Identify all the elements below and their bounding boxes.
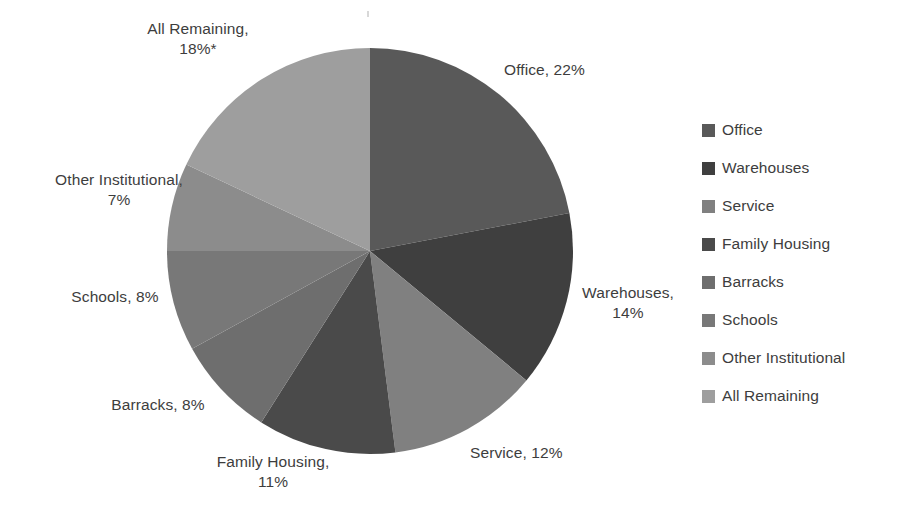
legend-item[interactable]: All Remaining [702,377,902,415]
legend-swatch-icon [702,162,715,175]
legend-item-label: Warehouses [722,159,809,177]
legend-swatch-icon [702,124,715,137]
legend-item[interactable]: Barracks [702,263,902,301]
legend-swatch-icon [702,352,715,365]
slice-label-warehouses: Warehouses, 14% [568,283,688,323]
legend-item[interactable]: Warehouses [702,149,902,187]
legend-item-label: Schools [722,311,778,329]
legend-swatch-icon [702,276,715,289]
chart-legend: OfficeWarehousesServiceFamily HousingBar… [702,111,902,415]
slice-label-schools: Schools, 8% [50,287,180,307]
legend-item[interactable]: Schools [702,301,902,339]
pie-chart-figure: Office, 22% Warehouses, 14% Service, 12%… [0,0,911,519]
slice-label-barracks: Barracks, 8% [88,395,228,415]
slice-label-other-institutional: Other Institutional, 7% [30,170,208,210]
legend-item-label: Office [722,121,763,139]
legend-swatch-icon [702,314,715,327]
legend-swatch-icon [702,238,715,251]
slice-label-service: Service, 12% [470,443,620,463]
legend-item-label: Family Housing [722,235,830,253]
legend-item-label: All Remaining [722,387,819,405]
legend-item-label: Service [722,197,774,215]
slice-label-all-remaining: All Remaining, 18%* [123,19,273,59]
legend-item[interactable]: Family Housing [702,225,902,263]
slice-label-family-housing: Family Housing, 11% [193,452,353,492]
legend-item[interactable]: Office [702,111,902,149]
pie-slice-group [167,48,573,454]
slice-label-office: Office, 22% [504,60,644,80]
legend-swatch-icon [702,390,715,403]
legend-item-label: Other Institutional [722,349,845,367]
legend-item-label: Barracks [722,273,784,291]
legend-item[interactable]: Other Institutional [702,339,902,377]
legend-item[interactable]: Service [702,187,902,225]
legend-swatch-icon [702,200,715,213]
